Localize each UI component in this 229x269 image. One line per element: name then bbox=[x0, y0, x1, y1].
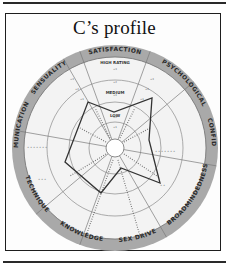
svg-text:+ + + + + + +: + + + + + + + bbox=[27, 146, 47, 149]
svg-text:+ + +: + + + bbox=[38, 178, 46, 181]
bottom-rule bbox=[3, 261, 226, 263]
svg-text:+1: +1 bbox=[113, 126, 117, 129]
profile-wheel-chart: +3+2+1 +2+1 +3+2+1 +3+2+1 + + + + + + + … bbox=[0, 0, 229, 269]
svg-text:+1: +1 bbox=[80, 98, 84, 101]
svg-text:+2: +2 bbox=[113, 81, 117, 84]
ring-label-low: LOW bbox=[110, 113, 121, 118]
svg-text:+2: +2 bbox=[75, 88, 79, 91]
svg-text:+ + + + + + +: + + + + + + + bbox=[155, 150, 175, 153]
ring-label-high: HIGH RATING bbox=[100, 60, 130, 65]
hub bbox=[106, 139, 124, 157]
svg-text:+3: +3 bbox=[113, 68, 117, 71]
svg-text:+2: +2 bbox=[145, 88, 149, 91]
svg-text:+3: +3 bbox=[150, 78, 154, 81]
svg-text:+ +: + + bbox=[160, 184, 165, 187]
svg-text:+3: +3 bbox=[70, 78, 74, 81]
ring-label-medium: MEDIUM bbox=[106, 90, 125, 95]
